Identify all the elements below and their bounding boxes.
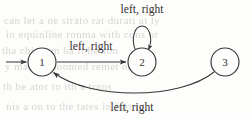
- self-loop-state-2: left, right: [121, 3, 165, 51]
- state-label-2: 2: [139, 56, 145, 68]
- state-node-3[interactable]: 3: [211, 48, 239, 76]
- fsm-graph: left, right left, right left, right 1 2 …: [0, 0, 252, 119]
- state-node-1[interactable]: 1: [28, 48, 56, 76]
- state-node-2[interactable]: 2: [128, 48, 156, 76]
- transition-3-to-1: left, right: [54, 72, 215, 114]
- transition-1-to-2: left, right: [57, 40, 126, 62]
- transition-label-3-to-1: left, right: [111, 101, 155, 114]
- state-diagram-canvas: can let a ne strato rat durati at ly in …: [0, 0, 252, 119]
- state-label-1: 1: [39, 56, 45, 68]
- transition-label-self-loop-2: left, right: [121, 3, 165, 16]
- transition-label-1-to-2: left, right: [70, 40, 114, 53]
- state-label-3: 3: [222, 56, 228, 68]
